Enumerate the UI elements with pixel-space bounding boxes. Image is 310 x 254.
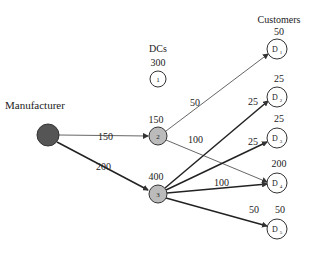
dc-capacity-label: 150 <box>149 114 164 125</box>
customer-node-d4: D 4 <box>267 173 287 193</box>
dc-node-label: 1 <box>156 76 160 84</box>
dc-capacity-label: 300 <box>151 57 166 68</box>
customer-demand-label: 25 <box>274 73 284 84</box>
flow-label-m-dc2: 150 <box>98 131 113 142</box>
manufacturer-heading: Manufacturer <box>5 99 65 111</box>
flow-label-dc2-d1: 50 <box>190 97 200 108</box>
flow-label-dc3-d4: 100 <box>214 177 229 188</box>
dc-node-2: 2 <box>149 127 167 145</box>
customer-demand-label: 50 <box>274 26 284 37</box>
flow-label-dc2-d4: 100 <box>188 134 203 145</box>
edge-dc2-d1 <box>166 54 268 131</box>
dc-node-1: 1 <box>150 71 166 87</box>
flow-label-m-dc3: 200 <box>96 161 111 172</box>
flow-label-dc3-d2: 25 <box>248 96 258 107</box>
customer-demand-label: 50 <box>275 204 285 215</box>
customer-node-d3: D 3 <box>267 128 287 148</box>
flow-label-dc3-d3: 25 <box>248 136 258 147</box>
customer-demand-label: 25 <box>274 113 284 124</box>
svg-text:D: D <box>272 179 278 188</box>
svg-text:D: D <box>272 225 278 234</box>
supply-chain-network-diagram: Manufacturer DCs Customers 150 200 50 10… <box>0 0 310 254</box>
dcs-heading: DCs <box>149 43 167 54</box>
customers-heading: Customers <box>258 14 301 25</box>
svg-text:D: D <box>272 93 278 102</box>
manufacturer-node <box>37 124 59 146</box>
customer-demand-label: 200 <box>272 158 287 169</box>
dc-capacity-label: 400 <box>149 171 164 182</box>
svg-text:D: D <box>272 134 278 143</box>
svg-text:D: D <box>272 45 278 54</box>
customer-node-d2: D 2 <box>267 87 287 107</box>
dc-node-3: 3 <box>149 185 167 203</box>
flow-label-dc3-d5: 50 <box>249 204 259 215</box>
customer-node-d5: D 5 <box>267 219 287 239</box>
dc-node-label: 3 <box>156 191 160 199</box>
dc-node-label: 2 <box>156 133 160 141</box>
customer-node-d1: D 1 <box>267 39 287 59</box>
